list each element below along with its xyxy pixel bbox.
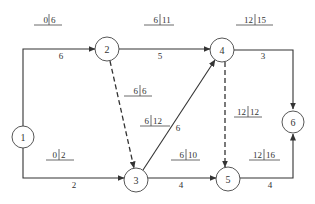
svg-text:0: 0 [53, 150, 58, 160]
time-label-1-2: 0 6 [34, 14, 62, 25]
node-2-label: 2 [105, 44, 110, 55]
node-6: 6 [282, 111, 304, 133]
node-5: 5 [216, 167, 240, 191]
svg-text:12: 12 [253, 150, 262, 160]
svg-text:2: 2 [61, 150, 66, 160]
svg-text:6: 6 [51, 15, 56, 25]
duration-3-4: 6 [176, 123, 181, 133]
time-label-3-5: 6 10 [171, 149, 200, 160]
time-label-1-3: 0 2 [46, 149, 74, 160]
duration-2-4: 5 [158, 51, 163, 61]
network-diagram: 1 2 3 4 5 6 6 2 5 6 4 3 4 0 6 6 11 12 [0, 0, 315, 204]
node-4: 4 [210, 38, 234, 62]
node-6-label: 6 [291, 117, 296, 128]
svg-text:12: 12 [250, 107, 259, 117]
duration-3-5: 4 [179, 180, 184, 190]
time-label-5-6: 12 16 [249, 149, 280, 160]
edge-2-3-dummy [110, 61, 134, 168]
svg-text:6: 6 [145, 116, 150, 126]
svg-text:16: 16 [266, 150, 276, 160]
svg-text:10: 10 [188, 150, 198, 160]
svg-text:6: 6 [180, 150, 185, 160]
svg-text:15: 15 [257, 15, 267, 25]
duration-4-6: 3 [261, 51, 266, 61]
duration-1-2: 6 [59, 51, 64, 61]
time-label-2-4: 6 11 [144, 14, 174, 25]
time-label-4-6: 12 15 [236, 14, 273, 25]
node-3-label: 3 [134, 175, 139, 186]
time-label-2-3: 6 6 [124, 85, 152, 96]
svg-text:12: 12 [244, 15, 253, 25]
node-1: 1 [12, 126, 34, 148]
svg-text:6: 6 [154, 15, 159, 25]
node-3: 3 [124, 168, 148, 192]
svg-text:12: 12 [153, 116, 162, 126]
time-label-3-4: 6 12 [140, 115, 170, 126]
svg-text:12: 12 [237, 107, 246, 117]
node-1-label: 1 [21, 132, 26, 143]
svg-text:6: 6 [142, 86, 147, 96]
node-2: 2 [95, 37, 119, 61]
edge-1-3 [23, 148, 124, 178]
time-label-4-5: 12 12 [234, 106, 262, 117]
duration-1-3: 2 [72, 180, 77, 190]
node-5-label: 5 [226, 174, 231, 185]
duration-5-6: 4 [268, 180, 273, 190]
svg-text:6: 6 [134, 86, 139, 96]
svg-text:0: 0 [44, 15, 49, 25]
svg-text:11: 11 [162, 15, 171, 25]
node-4-label: 4 [220, 45, 225, 56]
